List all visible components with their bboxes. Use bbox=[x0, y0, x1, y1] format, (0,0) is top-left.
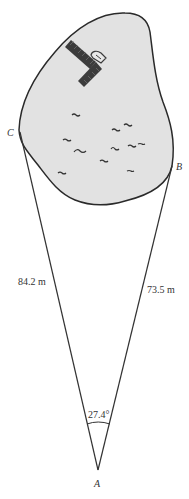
point-label-C: C bbox=[7, 127, 14, 138]
angle-label-A: 27.4° bbox=[88, 409, 110, 420]
angle-arc-A bbox=[87, 422, 110, 424]
side-AB bbox=[98, 166, 172, 470]
point-label-B: B bbox=[176, 161, 182, 172]
point-label-A: A bbox=[93, 478, 101, 489]
side-label-AB: 73.5 m bbox=[147, 284, 175, 295]
diagram-canvas: C B A 84.2 m 73.5 m 27.4° bbox=[0, 0, 189, 499]
side-label-AC: 84.2 m bbox=[18, 276, 46, 287]
lake-shape bbox=[19, 13, 173, 205]
